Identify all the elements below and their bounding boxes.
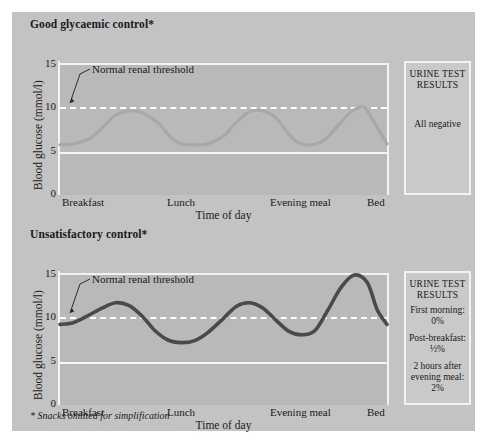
urine-test-heading-line2: RESULTS [406, 80, 469, 91]
urine-test-heading-line1: URINE TEST [406, 279, 469, 290]
x-tick-bed: Bed [367, 196, 385, 208]
urine-test-heading: URINE TEST RESULTS [406, 279, 469, 301]
figure-footnote: * Snacks omitted for simplification [30, 410, 169, 421]
x-tick-evening-meal: Evening meal [270, 406, 331, 418]
urine-result-first-morning-label: First morning: [406, 305, 469, 316]
urine-result-evening-value: 2% [406, 383, 469, 394]
urine-test-results-panel-unsatisfactory: URINE TEST RESULTS First morning: 0% Pos… [404, 271, 471, 405]
urine-result-all-negative: All negative [406, 119, 469, 130]
urine-test-heading-line2: RESULTS [406, 290, 469, 301]
annotation-normal-renal-threshold: Normal renal threshold [92, 273, 194, 285]
x-tick-lunch: Lunch [167, 196, 195, 208]
panel-good-glycaemic-control: Good glycaemic control* 15 10 5 0 Blood … [12, 12, 475, 221]
urine-test-heading-line1: URINE TEST [406, 69, 469, 80]
urine-result-post-breakfast-value: ½% [406, 344, 469, 355]
urine-result-evening-label-line1: 2 hours after [406, 361, 469, 372]
urine-result-first-morning-value: 0% [406, 316, 469, 327]
annotation-normal-renal-threshold: Normal renal threshold [92, 63, 194, 75]
urine-result-evening-label-line2: evening meal: [406, 372, 469, 383]
urine-result-post-breakfast-label: Post-breakfast: [406, 333, 469, 344]
x-tick-breakfast: Breakfast [62, 196, 104, 208]
x-tick-evening-meal: Evening meal [270, 196, 331, 208]
x-tick-bed: Bed [367, 406, 385, 418]
panel-unsatisfactory-control: Unsatisfactory control* 15 10 5 0 Blood … [12, 222, 475, 431]
urine-test-results-panel-good: URINE TEST RESULTS All negative [404, 61, 471, 195]
figure-container: Good glycaemic control* 15 10 5 0 Blood … [12, 12, 475, 431]
x-axis-label: Time of day [60, 209, 387, 221]
urine-test-heading: URINE TEST RESULTS [406, 69, 469, 91]
x-tick-lunch: Lunch [167, 406, 195, 418]
